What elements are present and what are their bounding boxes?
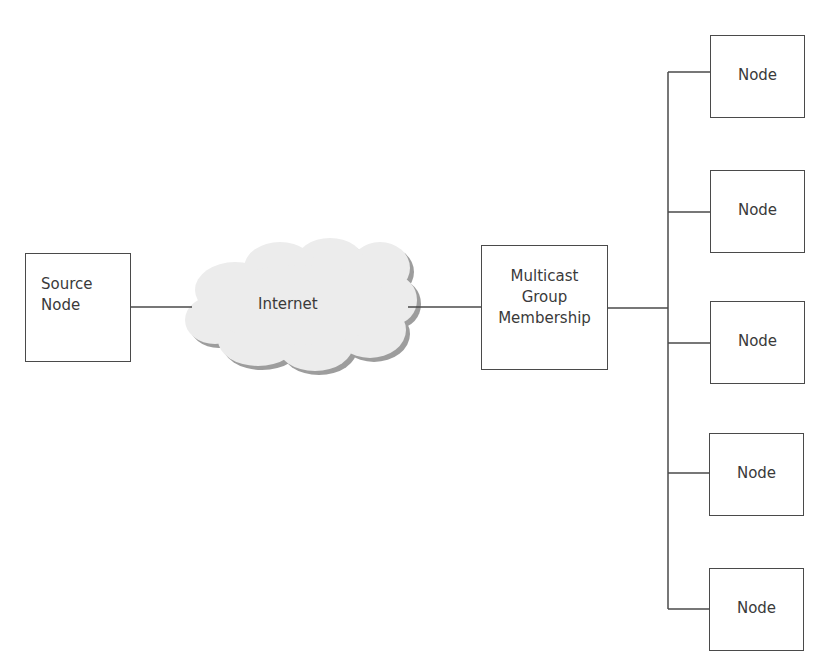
source-node-box: Source Node (25, 253, 131, 362)
internet-label: Internet (258, 295, 318, 313)
node-label: Node (737, 463, 776, 484)
node-label: Node (738, 200, 777, 221)
source-node-label-line1: Source (41, 274, 93, 295)
node-box-4: Node (709, 433, 804, 516)
node-label: Node (737, 598, 776, 619)
node-label: Node (738, 65, 777, 86)
multicast-label-line3: Membership (498, 308, 591, 329)
node-box-2: Node (710, 170, 805, 253)
source-node-label-line2: Node (41, 295, 93, 316)
node-label: Node (738, 331, 777, 352)
multicast-label-line2: Group (498, 287, 591, 308)
multicast-group-box: Multicast Group Membership (481, 245, 608, 370)
multicast-label-line1: Multicast (498, 266, 591, 287)
node-box-3: Node (710, 301, 805, 384)
node-box-5: Node (709, 568, 804, 651)
node-box-1: Node (710, 35, 805, 118)
